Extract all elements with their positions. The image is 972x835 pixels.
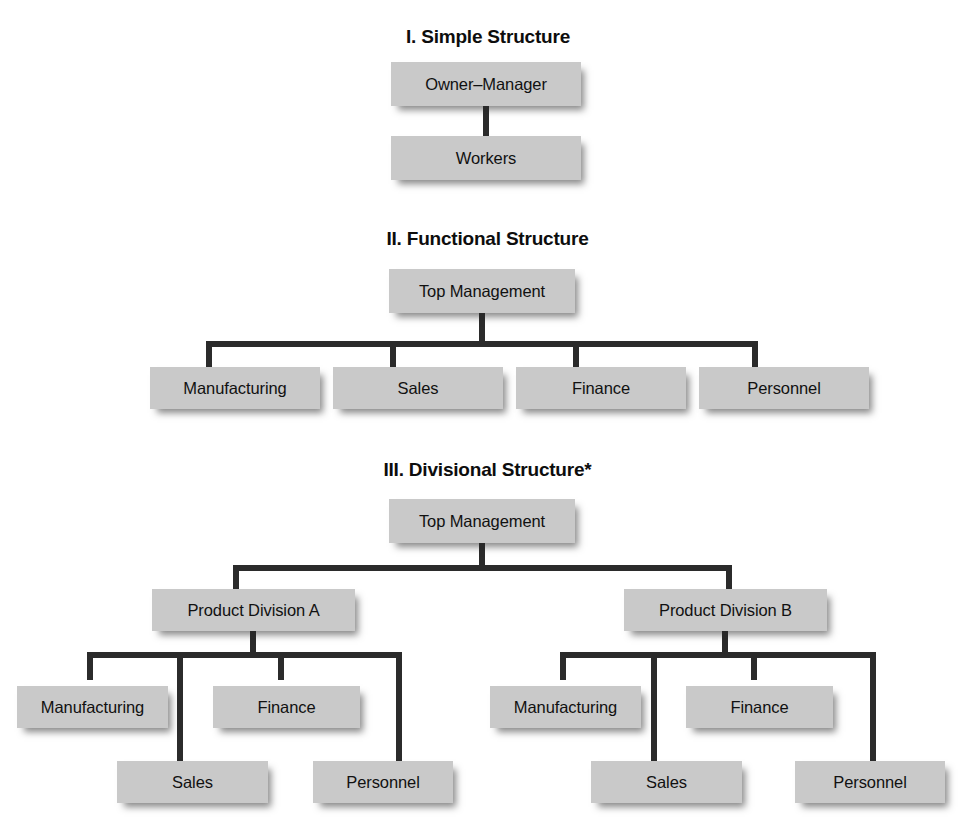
connector-division-a-drop-manufacturing [87,652,93,680]
node-division-b-finance[interactable]: Finance [686,686,833,728]
org-chart-diagram: I. Simple Structure Owner–Manager Worker… [0,0,972,835]
node-division-a-personnel[interactable]: Personnel [313,761,453,803]
node-division-a-sales[interactable]: Sales [117,761,268,803]
connector-division-b-drop-personnel [870,652,876,762]
node-product-division-a[interactable]: Product Division A [152,589,355,631]
node-division-a-manufacturing[interactable]: Manufacturing [17,686,168,728]
section-heading-simple-structure: I. Simple Structure [358,26,618,48]
node-division-a-finance[interactable]: Finance [213,686,360,728]
connector-division-a-bus [87,652,402,658]
connector-division-a-drop-finance [278,652,284,680]
node-functional-personnel[interactable]: Personnel [699,367,869,409]
node-owner-manager[interactable]: Owner–Manager [391,62,581,106]
node-functional-sales[interactable]: Sales [333,367,503,409]
node-division-b-personnel[interactable]: Personnel [795,761,945,803]
node-division-b-manufacturing[interactable]: Manufacturing [490,686,641,728]
node-functional-finance[interactable]: Finance [516,367,686,409]
connector-divisional-bus [233,565,732,571]
connector-division-b-drop-sales [651,652,657,762]
node-divisional-top-management[interactable]: Top Management [389,499,575,543]
section-heading-functional-structure: II. Functional Structure [355,228,620,250]
connector-functional-bus [206,341,758,347]
connector-owner-to-workers [483,102,489,140]
node-workers[interactable]: Workers [391,136,581,180]
node-product-division-b[interactable]: Product Division B [624,589,827,631]
connector-division-b-drop-finance [751,652,757,680]
node-functional-manufacturing[interactable]: Manufacturing [150,367,320,409]
connector-division-b-bus [560,652,876,658]
node-division-b-sales[interactable]: Sales [591,761,742,803]
section-heading-divisional-structure: III. Divisional Structure* [345,459,630,481]
connector-division-a-drop-sales [177,652,183,762]
connector-division-a-drop-personnel [396,652,402,762]
connector-division-b-drop-manufacturing [560,652,566,680]
node-functional-top-management[interactable]: Top Management [389,269,575,313]
connector-functional-stem [479,309,485,345]
